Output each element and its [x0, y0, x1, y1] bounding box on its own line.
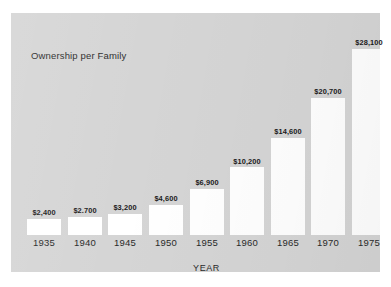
bar-column: $3,200 — [106, 38, 144, 235]
bar-column: $6,900 — [188, 38, 226, 235]
bar-column: $10,200 — [228, 38, 266, 235]
bar-column: $4,600 — [147, 38, 185, 235]
bar-1970 — [311, 98, 345, 235]
x-tick-1955: 1955 — [188, 237, 226, 248]
bar-column: $28,100 — [350, 38, 388, 235]
bar-value-label: $2.700 — [73, 207, 96, 214]
bar-value-label: $10,200 — [233, 158, 260, 165]
bar-value-label: $4,600 — [154, 195, 177, 202]
plot-area: $2,400$2.700$3,200$4,600$6,900$10,200$14… — [25, 38, 388, 235]
bar-1950 — [149, 205, 183, 235]
chart-figure: Ownership per Family $2,400$2.700$3,200$… — [0, 0, 391, 287]
bar-1975 — [352, 49, 386, 235]
bar-column: $2.700 — [66, 38, 104, 235]
bar-column: $20,700 — [309, 38, 347, 235]
x-tick-1960: 1960 — [228, 237, 266, 248]
bar-value-label: $3,200 — [113, 204, 136, 211]
x-tick-1950: 1950 — [147, 237, 185, 248]
x-tick-1965: 1965 — [269, 237, 307, 248]
bar-column: $2,400 — [25, 38, 63, 235]
bar-1960 — [230, 167, 264, 235]
x-axis-tick-labels: 193519401945195019551960196519701975 — [25, 237, 388, 253]
bar-1965 — [271, 138, 305, 235]
bar-column: $14,600 — [269, 38, 307, 235]
chart-panel: Ownership per Family $2,400$2.700$3,200$… — [11, 13, 380, 272]
bar-1935 — [27, 219, 61, 235]
bar-value-label: $28,100 — [355, 39, 382, 46]
x-tick-1940: 1940 — [66, 237, 104, 248]
bar-value-label: $20,700 — [314, 88, 341, 95]
bar-value-label: $2,400 — [32, 209, 55, 216]
bar-1955 — [190, 189, 224, 235]
x-tick-1975: 1975 — [350, 237, 388, 248]
bar-1945 — [108, 214, 142, 235]
x-axis-label: YEAR — [11, 263, 391, 273]
bar-1940 — [68, 217, 102, 235]
x-tick-1970: 1970 — [309, 237, 347, 248]
bar-value-label: $6,900 — [195, 179, 218, 186]
x-tick-1945: 1945 — [106, 237, 144, 248]
x-tick-1935: 1935 — [25, 237, 63, 248]
bar-value-label: $14,600 — [274, 128, 301, 135]
